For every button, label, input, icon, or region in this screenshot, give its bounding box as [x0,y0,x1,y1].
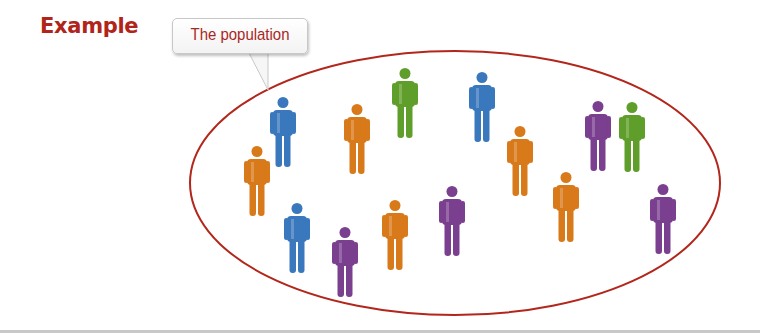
person-icon-orange [553,172,579,244]
callout-box: The population [172,18,308,54]
person-icon-blue [270,97,296,169]
person-icon-green [619,102,645,174]
person-icon-purple [585,101,611,173]
population-diagram [0,0,760,333]
person-icon-blue [469,72,495,144]
person-icon-purple [332,227,358,299]
callout-tail [248,51,268,90]
person-icon-orange [244,146,270,218]
person-icon-orange [382,200,408,272]
person-icon-blue [284,203,310,275]
person-icon-orange [507,126,533,198]
person-icon-purple [650,184,676,256]
person-icon-purple [439,186,465,258]
person-icon-green [392,68,418,140]
person-icon-orange [344,104,370,176]
callout-label: The population [181,25,299,45]
